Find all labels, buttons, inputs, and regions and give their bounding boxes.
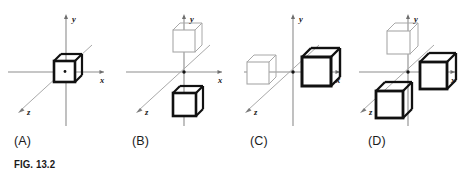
y-axis-arrow: [64, 14, 68, 19]
x-axis-arrow: [218, 70, 223, 74]
cube-left-light: [247, 55, 276, 84]
cube-front-face: [387, 31, 410, 54]
cube-front-face: [173, 30, 195, 52]
cube-upper-left-light: [387, 23, 418, 54]
y-axis-label: y: [71, 14, 76, 24]
z-axis-label: z: [253, 107, 258, 117]
y-axis-label: y: [413, 14, 418, 24]
panel-label-c: (C): [250, 134, 268, 148]
cube-edge-bottom-right: [195, 45, 202, 52]
z-axis-label: z: [26, 107, 31, 117]
z-axis-arrow: [136, 108, 143, 113]
cube-origin-dark: [54, 54, 82, 82]
panel-c-diagram: y x z: [236, 0, 354, 138]
panel-b: y x z (B): [118, 0, 236, 150]
figure-13-2: y x z (A): [0, 0, 472, 178]
panel-label-d: (D): [368, 134, 386, 148]
cube-above-light: [173, 23, 202, 52]
cube-front-face: [420, 62, 447, 89]
cube-front-face: [376, 91, 403, 118]
cube-edge-top-left: [247, 55, 254, 62]
x-axis-label: x: [450, 75, 456, 85]
origin-point: [406, 70, 409, 73]
cube-right-dark: [302, 48, 340, 86]
origin-point: [182, 70, 185, 73]
cube-edge-top-left: [387, 23, 395, 31]
cube-edge-top-right: [447, 53, 456, 62]
cube-center-point: [64, 70, 67, 73]
figure-caption: FIG. 13.2: [14, 158, 55, 170]
panel-label-a: (A): [14, 134, 31, 148]
y-axis-arrow: [291, 14, 295, 19]
x-axis-arrow: [451, 70, 456, 74]
cube-edge-top-left: [173, 23, 180, 30]
y-axis-label: y: [189, 14, 194, 24]
y-axis-arrow: [406, 14, 410, 19]
cube-below-dark: [173, 86, 203, 116]
cube-front-face: [173, 93, 196, 116]
cube-front-face: [302, 57, 331, 86]
cube-edge-top-right: [331, 48, 340, 57]
cube-edge-top-right: [195, 23, 202, 30]
panel-a: y x z (A): [0, 0, 118, 150]
panel-a-diagram: y x z: [0, 0, 118, 138]
cube-edge-top-right: [410, 23, 418, 31]
y-axis-label: y: [298, 14, 303, 24]
cube-lower-left-dark: [376, 82, 412, 118]
panel-d: y x z (D): [354, 0, 472, 150]
z-axis-label: z: [368, 107, 373, 117]
z-axis-arrow: [18, 108, 25, 113]
panel-c: y x z (C): [236, 0, 354, 150]
z-axis-label: z: [144, 107, 149, 117]
cube-edge-top-right: [269, 55, 276, 62]
cube-edge-bottom-right: [410, 46, 418, 54]
panel-label-b: (B): [132, 134, 149, 148]
cube-front-face: [247, 62, 269, 84]
panel-b-diagram: y x z: [118, 0, 236, 138]
panel-d-diagram: y x z: [354, 0, 472, 138]
x-axis-label: x: [335, 75, 341, 85]
origin-point: [291, 70, 294, 73]
x-axis-label: x: [99, 75, 105, 85]
y-axis-arrow: [182, 14, 186, 19]
z-axis-arrow: [245, 108, 252, 113]
x-axis-label: x: [217, 75, 223, 85]
z-axis-arrow: [360, 108, 367, 113]
x-axis-arrow: [100, 70, 105, 74]
cube-edge-bottom-right: [269, 77, 276, 84]
